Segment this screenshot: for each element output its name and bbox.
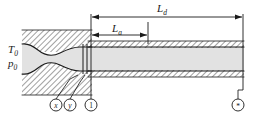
station-marker-y: y (64, 99, 76, 111)
station-marker-y-label: y (67, 101, 72, 110)
station-marker-star-label: * (236, 102, 240, 111)
leader-station-star (238, 90, 243, 99)
La-label: La (111, 22, 122, 37)
stagnation-pressure-label: p0 (7, 57, 18, 72)
duct-interior (88, 47, 244, 71)
La-arrowhead-right (140, 33, 147, 38)
station-marker-x: x (50, 99, 62, 111)
Ld-label: Ld (156, 2, 167, 17)
Ld-arrowhead-left (92, 15, 99, 20)
figure-canvas: Ld La T0 p0 x y (0, 0, 260, 125)
station-marker-1: 1 (85, 99, 97, 111)
La-arrowhead-left (92, 33, 99, 38)
station-marker-x-label: x (53, 101, 58, 110)
nozzle-duct-figure: Ld La T0 p0 x y (0, 0, 260, 125)
dimension-Ld (92, 15, 242, 20)
station-markers: x y 1 * (50, 99, 244, 111)
station-marker-star: * (232, 99, 244, 111)
Ld-arrowhead-right (235, 15, 242, 20)
station-marker-1-label: 1 (89, 101, 93, 110)
stagnation-temperature-label: T0 (8, 43, 18, 58)
